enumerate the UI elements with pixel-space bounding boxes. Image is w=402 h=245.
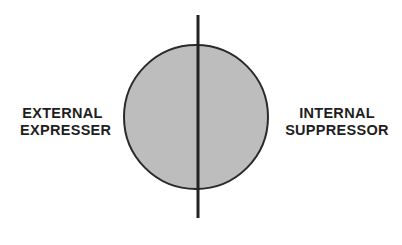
continuum-circle [124,45,268,189]
external-expresser-label: EXTERNAL EXPRESSER [20,105,105,139]
right-label-line1: INTERNAL [282,105,392,122]
left-label-line2: EXPRESSER [20,122,105,139]
internal-suppressor-label: INTERNAL SUPPRESSOR [282,105,392,139]
right-label-line2: SUPPRESSOR [282,122,392,139]
left-label-line1: EXTERNAL [20,105,105,122]
